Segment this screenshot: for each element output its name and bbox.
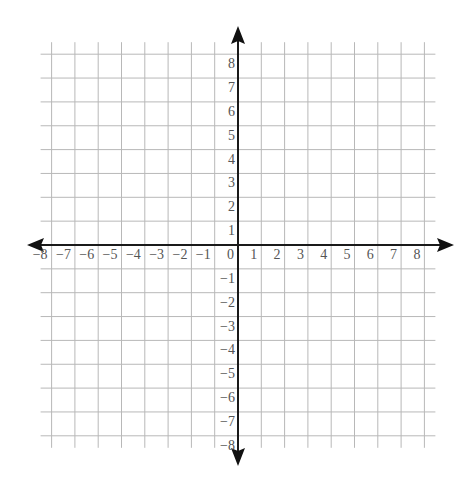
axes: [27, 26, 454, 466]
y-tick-label: −8: [220, 438, 235, 453]
x-tick-label: −5: [103, 247, 118, 262]
x-tick-label: −6: [79, 247, 94, 262]
y-tick-label: −7: [220, 414, 235, 429]
y-tick-label: 5: [228, 128, 235, 143]
y-tick-label: 3: [228, 175, 235, 190]
y-tick-label: 4: [228, 152, 235, 167]
y-tick-label: 6: [228, 104, 235, 119]
y-tick-label: 2: [228, 199, 235, 214]
x-axis-tick-labels: −8−7−6−5−4−3−2−1012345678: [33, 247, 421, 262]
y-tick-label: 7: [228, 80, 235, 95]
x-tick-label: 2: [274, 247, 281, 262]
x-tick-label: −8: [33, 247, 48, 262]
coordinate-plane: −8−7−6−5−4−3−2−1012345678 87654321−1−2−3…: [0, 0, 472, 477]
x-tick-label: 1: [250, 247, 257, 262]
x-tick-label: 8: [413, 247, 420, 262]
y-tick-label: −1: [220, 271, 235, 286]
x-tick-label: −7: [56, 247, 71, 262]
x-tick-label: 5: [344, 247, 351, 262]
x-tick-label: −2: [172, 247, 187, 262]
x-tick-label: −4: [126, 247, 141, 262]
y-tick-label: 8: [228, 56, 235, 71]
y-tick-label: 1: [228, 223, 235, 238]
y-tick-label: −4: [220, 342, 235, 357]
x-tick-label: 7: [390, 247, 397, 262]
y-tick-label: −5: [220, 366, 235, 381]
x-tick-label: −3: [149, 247, 164, 262]
x-tick-label: 6: [367, 247, 374, 262]
y-tick-label: −6: [220, 390, 235, 405]
x-tick-label: −1: [196, 247, 211, 262]
x-tick-label: 4: [320, 247, 327, 262]
x-tick-label: 0: [227, 247, 234, 262]
x-tick-label: 3: [297, 247, 304, 262]
y-tick-label: −2: [220, 295, 235, 310]
y-tick-label: −3: [220, 319, 235, 334]
